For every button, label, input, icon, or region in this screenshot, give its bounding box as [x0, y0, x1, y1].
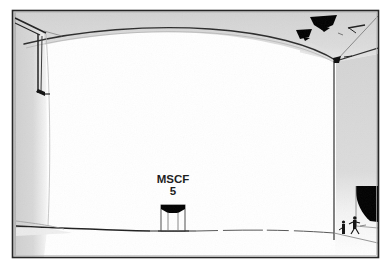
interior-hall-drawing: MSCF 5 — [0, 0, 391, 278]
figure-container: MSCF 5 — [0, 0, 391, 278]
scan-grain-overlay — [13, 11, 378, 257]
scene: MSCF 5 — [13, 11, 378, 257]
